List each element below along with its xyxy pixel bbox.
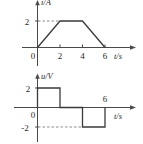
current-y-axis-arrow: [35, 0, 40, 5]
current-y-axis: [35, 0, 40, 66]
voltage-y-tick-neg2-label: -2: [21, 123, 29, 133]
current-x-axis-label: t/s: [114, 51, 123, 61]
chart-current-vs-time: i/A 2 0 2 4 6 t/s: [0, 0, 143, 72]
current-origin-label: 0: [31, 51, 36, 61]
voltage-x-axis-label: t/s: [114, 111, 123, 121]
chart-voltage-vs-time: u/V 2 -2 0 6 t/s: [0, 66, 143, 144]
current-y-tick-2-label: 2: [25, 17, 30, 27]
current-x-tick-2-label: 2: [58, 51, 63, 61]
current-x-tick-4-label: 4: [80, 51, 85, 61]
voltage-y-axis-arrow: [35, 74, 40, 79]
current-x-tick-6-label: 6: [103, 51, 108, 61]
voltage-y-axis-label: u/V: [41, 71, 55, 81]
voltage-x-axis-arrow: [130, 105, 136, 110]
current-x-axis-arrow: [130, 45, 136, 50]
current-y-axis-label: i/A: [41, 0, 52, 7]
voltage-x-tick-6-label: 6: [103, 94, 108, 104]
voltage-origin-label: 0: [31, 110, 36, 120]
voltage-y-tick-2-label: 2: [26, 84, 31, 94]
current-chart-svg: i/A 2 0 2 4 6 t/s: [0, 0, 143, 72]
current-waveform: [38, 21, 106, 48]
voltage-chart-svg: u/V 2 -2 0 6 t/s: [0, 66, 143, 144]
physics-figure: i/A 2 0 2 4 6 t/s: [0, 0, 143, 144]
